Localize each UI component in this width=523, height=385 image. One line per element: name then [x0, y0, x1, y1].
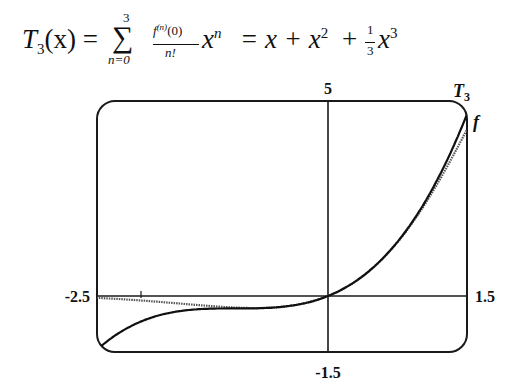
x-min-label: -2.5 — [65, 288, 90, 305]
plot-frame — [97, 101, 467, 352]
series-T3-curve — [96, 114, 467, 350]
series-T3-label: T3 — [453, 81, 470, 104]
y-min-label: -1.5 — [315, 364, 340, 381]
plot: 5 -1.5 -2.5 1.5 T3 f — [0, 0, 523, 385]
series-f-curve — [96, 129, 467, 308]
x-max-label: 1.5 — [475, 288, 495, 305]
y-max-label: 5 — [324, 80, 332, 97]
series-f-label: f — [473, 112, 481, 132]
